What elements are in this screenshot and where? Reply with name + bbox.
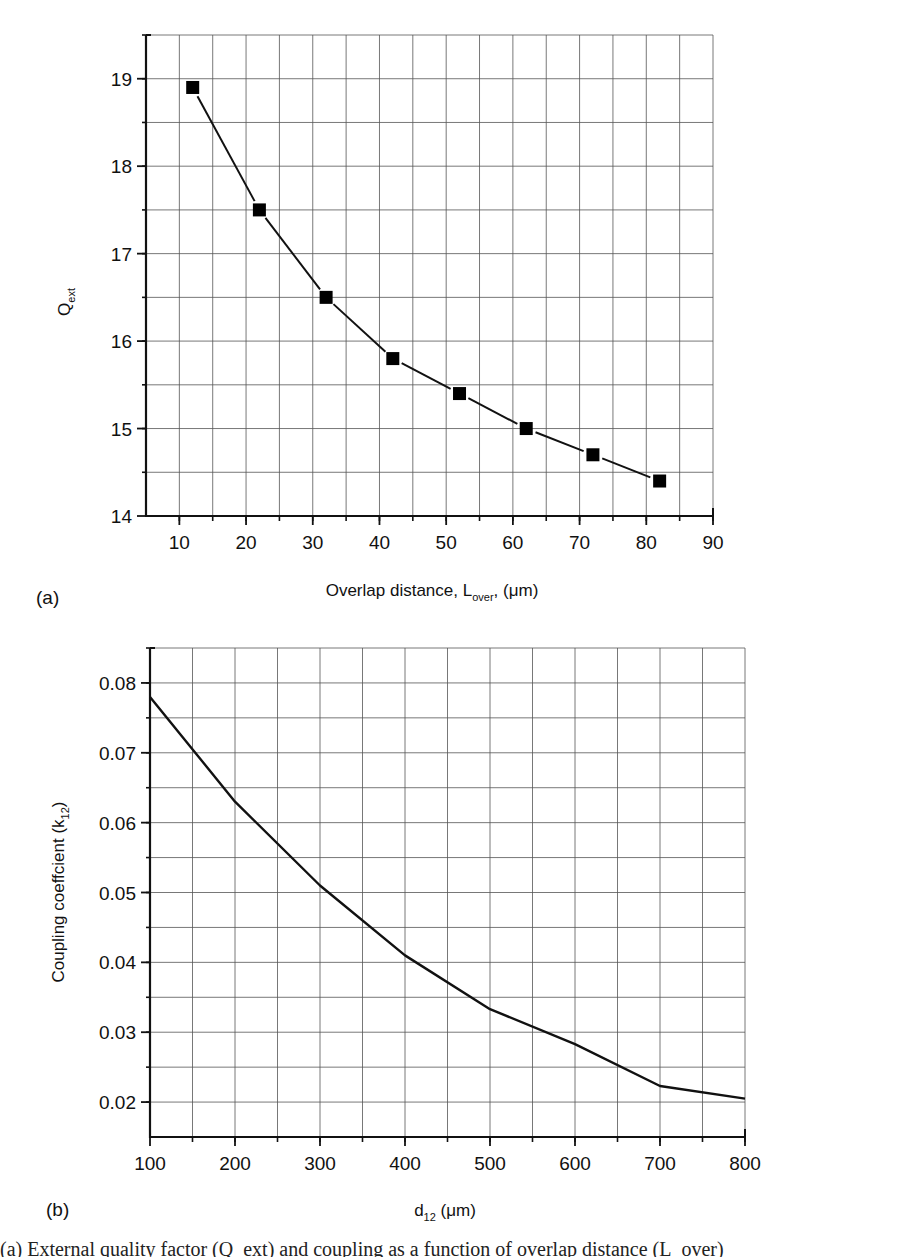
x-tick-label: 80: [636, 532, 657, 553]
chart-b-grid: [150, 648, 745, 1137]
x-tick-label: 200: [219, 1153, 251, 1174]
y-tick-label: 18: [111, 156, 132, 177]
series-line-segment: [602, 458, 650, 477]
x-tick-label: 50: [436, 532, 457, 553]
chart-a-x-axis-title: Overlap distance, Lover, (μm): [326, 581, 539, 603]
chart-a-y-axis-title: Qext: [55, 288, 77, 316]
y-tick-label: 0.02: [99, 1092, 136, 1113]
x-tick-label: 30: [302, 532, 323, 553]
chart-b-tick-labels: 1002003004005006007008000.020.030.040.05…: [99, 673, 761, 1174]
chart-a-qext-vs-overlap: 102030405060708090141516171819 Qext Over…: [36, 35, 724, 608]
x-tick-label: 100: [134, 1153, 166, 1174]
square-marker: [320, 291, 333, 304]
series-line-segment: [468, 398, 517, 424]
figure-caption: (a) External quality factor (Q_ext) and …: [0, 1238, 902, 1257]
y-tick-label: 0.08: [99, 673, 136, 694]
square-marker: [520, 422, 533, 435]
chart-a-tick-labels: 102030405060708090141516171819: [111, 69, 724, 553]
y-tick-label: 14: [111, 506, 133, 527]
y-tick-label: 0.07: [99, 743, 136, 764]
chart-b-panel-label: (b): [46, 1199, 69, 1220]
y-tick-label: 0.06: [99, 813, 136, 834]
y-tick-label: 17: [111, 244, 132, 265]
chart-b-coupling-vs-d12: 1002003004005006007008000.020.030.040.05…: [46, 648, 761, 1223]
x-tick-label: 400: [389, 1153, 421, 1174]
chart-a-panel-label: (a): [36, 587, 59, 608]
y-tick-label: 0.04: [99, 952, 136, 973]
figure-canvas: 102030405060708090141516171819 Qext Over…: [0, 0, 902, 1257]
y-tick-label: 19: [111, 69, 132, 90]
series-line-segment: [536, 432, 584, 451]
x-tick-label: 40: [369, 532, 390, 553]
x-tick-label: 60: [502, 532, 523, 553]
y-tick-label: 16: [111, 331, 132, 352]
square-marker: [586, 448, 599, 461]
x-tick-label: 500: [474, 1153, 506, 1174]
y-tick-label: 15: [111, 419, 132, 440]
square-marker: [386, 352, 399, 365]
square-marker: [453, 387, 466, 400]
x-tick-label: 800: [729, 1153, 761, 1174]
square-marker: [253, 203, 266, 216]
series-line-segment: [333, 304, 385, 352]
x-tick-label: 600: [559, 1153, 591, 1174]
square-marker: [186, 81, 199, 94]
x-tick-label: 70: [569, 532, 590, 553]
chart-b-y-axis-title: Coupling coeffcient (k12): [49, 801, 71, 982]
chart-a-grid: [146, 35, 713, 516]
x-tick-label: 20: [235, 532, 256, 553]
y-tick-label: 0.05: [99, 883, 136, 904]
y-tick-label: 0.03: [99, 1022, 136, 1043]
x-tick-label: 90: [702, 532, 723, 553]
square-marker: [653, 475, 666, 488]
x-tick-label: 10: [169, 532, 190, 553]
chart-b-axes: [141, 648, 745, 1146]
chart-a-axes: [137, 35, 713, 525]
x-tick-label: 700: [644, 1153, 676, 1174]
chart-b-x-axis-title: d12 (μm): [414, 1201, 476, 1223]
x-tick-label: 300: [304, 1153, 336, 1174]
chart-a-data-series: [186, 81, 666, 488]
